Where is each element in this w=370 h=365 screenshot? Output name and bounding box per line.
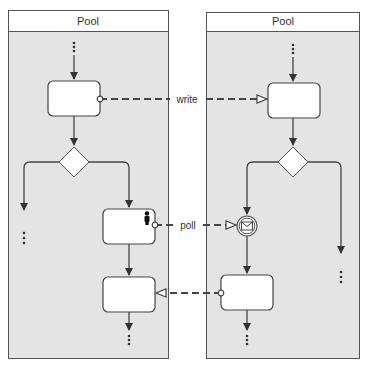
envelope-icon <box>242 222 253 230</box>
left-task-1[interactable] <box>48 81 100 116</box>
right-continuation-mid <box>340 271 343 284</box>
bpmn-diagram: Pool Pool <box>0 0 370 365</box>
left-continuation-bottom <box>128 335 131 346</box>
message-flow-write-label: write <box>175 94 198 105</box>
pool-right-title: Pool <box>272 15 294 27</box>
pool-left-title: Pool <box>77 15 99 27</box>
left-continuation-mid <box>23 232 26 245</box>
right-continuation-top <box>292 44 295 55</box>
right-message-event[interactable] <box>237 216 257 236</box>
right-continuation-bottom <box>246 335 249 346</box>
left-continuation-top <box>73 42 76 53</box>
right-task-2[interactable] <box>221 275 273 310</box>
right-task-1[interactable] <box>268 83 320 118</box>
message-flow-poll-label: poll <box>180 220 196 231</box>
left-task-3[interactable] <box>103 277 155 312</box>
